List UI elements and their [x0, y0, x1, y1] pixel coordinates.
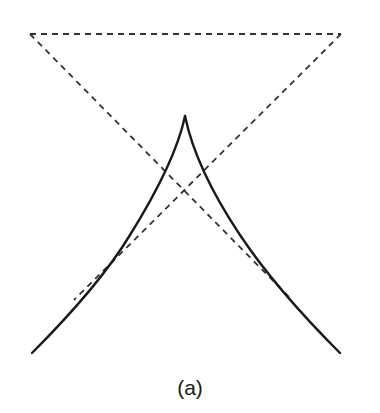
dashed-diagonal-left-to-right — [30, 34, 292, 300]
figure-caption: (a) — [0, 374, 380, 402]
cusp-curve-right-branch — [185, 116, 340, 353]
cusp-diagram-svg — [0, 0, 380, 413]
diagram-figure: (a) — [0, 0, 380, 413]
cusp-curve-left-branch — [32, 116, 185, 353]
